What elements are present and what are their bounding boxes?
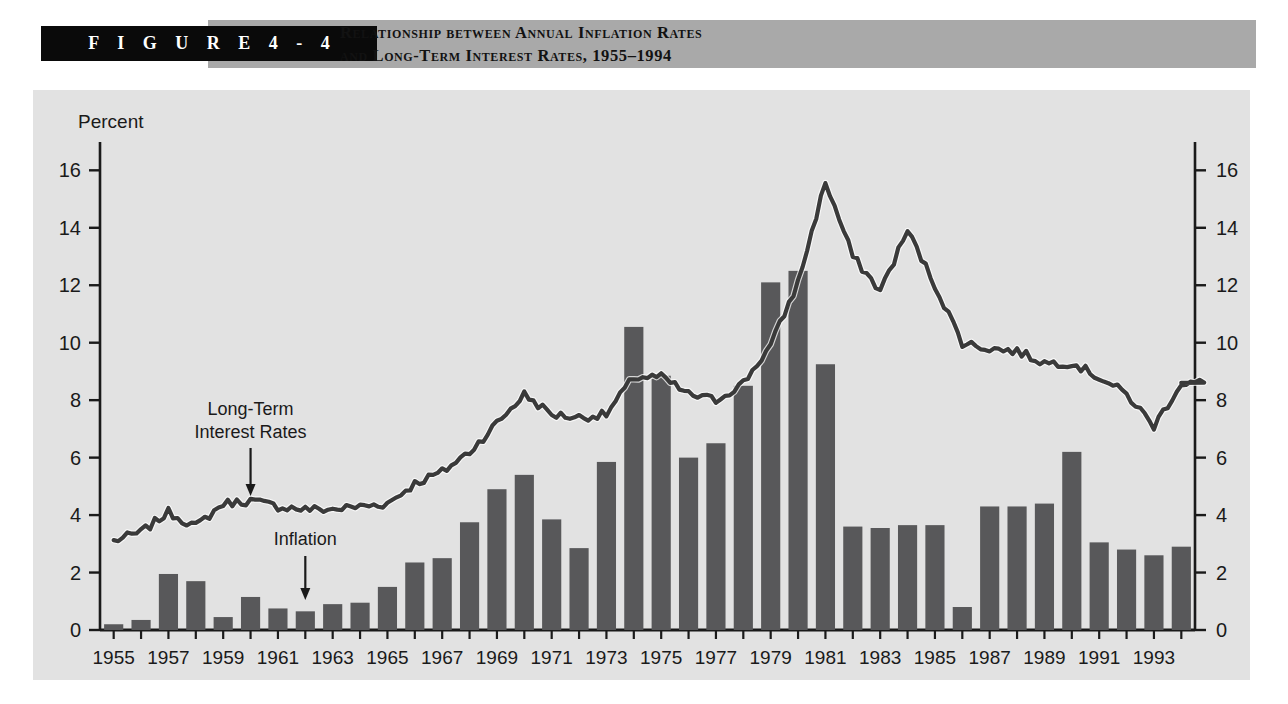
x-tick-label: 1981 bbox=[804, 647, 846, 668]
annotation-inflation-arrow-head bbox=[300, 588, 310, 600]
y-tick-label-right: 0 bbox=[1216, 619, 1227, 641]
bar bbox=[816, 364, 835, 630]
bar bbox=[843, 527, 862, 630]
x-tick-label: 1973 bbox=[585, 647, 627, 668]
annotation-interest-arrow-head bbox=[246, 484, 256, 496]
bar bbox=[542, 519, 561, 630]
y-tick-label-right: 10 bbox=[1216, 332, 1238, 354]
inflation-interest-chart: Percent002244668810101212141416161955195… bbox=[33, 90, 1250, 680]
y-tick-label-left: 6 bbox=[70, 447, 81, 469]
bar bbox=[241, 597, 260, 630]
bar bbox=[1062, 452, 1081, 630]
bar bbox=[679, 458, 698, 630]
y-tick-label-right: 16 bbox=[1216, 159, 1238, 181]
x-tick-label: 1955 bbox=[93, 647, 135, 668]
bar bbox=[186, 581, 205, 630]
x-tick-label: 1957 bbox=[147, 647, 189, 668]
chart-panel: Percent002244668810101212141416161955195… bbox=[33, 90, 1250, 680]
x-tick-label: 1967 bbox=[421, 647, 463, 668]
annotation-inflation-label: Inflation bbox=[274, 529, 337, 549]
bar bbox=[1090, 542, 1109, 630]
bar bbox=[515, 475, 534, 630]
x-tick-label: 1977 bbox=[695, 647, 737, 668]
y-tick-label-left: 16 bbox=[59, 159, 81, 181]
bar bbox=[296, 611, 315, 630]
x-tick-label: 1963 bbox=[312, 647, 354, 668]
y-tick-label-right: 6 bbox=[1216, 447, 1227, 469]
bar bbox=[1117, 550, 1136, 630]
bar bbox=[159, 574, 178, 630]
x-tick-label: 1961 bbox=[257, 647, 299, 668]
bar bbox=[433, 558, 452, 630]
figure-title: Relationship between Annual Inflation Ra… bbox=[340, 21, 1240, 69]
y-tick-label-right: 4 bbox=[1216, 504, 1227, 526]
bar bbox=[597, 462, 616, 630]
bar bbox=[1144, 555, 1163, 630]
figure-title-line-1: Relationship between Annual Inflation Ra… bbox=[340, 23, 702, 42]
x-tick-label: 1987 bbox=[969, 647, 1011, 668]
bar bbox=[871, 528, 890, 630]
y-tick-label-left: 12 bbox=[59, 274, 81, 296]
x-tick-label: 1985 bbox=[914, 647, 956, 668]
bar bbox=[104, 624, 123, 630]
y-tick-label-right: 2 bbox=[1216, 562, 1227, 584]
figure-title-line-2: and Long-Term Interest Rates, 1955–1994 bbox=[340, 44, 1240, 67]
x-tick-label: 1969 bbox=[476, 647, 518, 668]
x-tick-label: 1975 bbox=[640, 647, 682, 668]
y-tick-label-left: 0 bbox=[70, 619, 81, 641]
y-tick-label-right: 12 bbox=[1216, 274, 1238, 296]
figure-number-badge: F I G U R E 4 - 4 bbox=[41, 26, 377, 61]
bar bbox=[898, 525, 917, 630]
annotation-interest-line-2: Interest Rates bbox=[195, 422, 307, 442]
bar bbox=[378, 587, 397, 630]
bar bbox=[706, 443, 725, 630]
figure-root: F I G U R E 4 - 4 Relationship between A… bbox=[0, 0, 1288, 704]
bar bbox=[734, 386, 753, 630]
x-tick-label: 1993 bbox=[1133, 647, 1175, 668]
figure-header: F I G U R E 4 - 4 Relationship between A… bbox=[0, 0, 1288, 88]
chart-plot-area: Percent002244668810101212141416161955195… bbox=[33, 90, 1250, 680]
bar bbox=[652, 376, 671, 630]
bar bbox=[131, 620, 150, 630]
x-tick-label: 1979 bbox=[750, 647, 792, 668]
y-tick-label-right: 14 bbox=[1216, 217, 1238, 239]
bar bbox=[460, 522, 479, 630]
bar bbox=[569, 548, 588, 630]
bar bbox=[214, 617, 233, 630]
figure-number-label: F I G U R E 4 - 4 bbox=[41, 26, 377, 61]
y-tick-label-left: 8 bbox=[70, 389, 81, 411]
bar bbox=[350, 603, 369, 630]
annotation-interest-line-1: Long-Term bbox=[208, 399, 294, 419]
bar bbox=[980, 506, 999, 630]
x-tick-label: 1983 bbox=[859, 647, 901, 668]
bar bbox=[788, 271, 807, 630]
y-tick-label-left: 2 bbox=[70, 562, 81, 584]
y-tick-label-right: 8 bbox=[1216, 389, 1227, 411]
bar bbox=[953, 607, 972, 630]
y-tick-label-left: 10 bbox=[59, 332, 81, 354]
bar bbox=[1007, 506, 1026, 630]
x-tick-label: 1965 bbox=[366, 647, 408, 668]
bar bbox=[268, 608, 287, 630]
bar bbox=[405, 562, 424, 630]
bar bbox=[1172, 547, 1191, 630]
bar bbox=[323, 604, 342, 630]
bar bbox=[624, 327, 643, 630]
bar bbox=[925, 525, 944, 630]
y-tick-label-left: 14 bbox=[59, 217, 81, 239]
y-tick-label-left: 4 bbox=[70, 504, 81, 526]
bar bbox=[1035, 504, 1054, 630]
x-tick-label: 1971 bbox=[531, 647, 573, 668]
x-tick-label: 1959 bbox=[202, 647, 244, 668]
y-axis-title: Percent bbox=[78, 111, 144, 132]
x-tick-label: 1991 bbox=[1078, 647, 1120, 668]
bar bbox=[487, 489, 506, 630]
x-tick-label: 1989 bbox=[1023, 647, 1065, 668]
